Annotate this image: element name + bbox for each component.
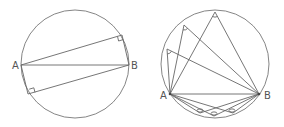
angle-marker-lower-2 xyxy=(211,112,217,115)
label-a-left: A xyxy=(12,60,19,71)
label-a-right: A xyxy=(160,90,167,101)
label-b-right: B xyxy=(264,90,271,101)
diagram-canvas: A B A B xyxy=(0,0,284,127)
angle-marker-top xyxy=(213,17,218,18)
angle-marker-lower-3 xyxy=(229,109,235,112)
left-figure: A B xyxy=(12,10,138,118)
angle-marker-low xyxy=(167,51,171,54)
point-b-dot xyxy=(258,93,261,96)
right-angle-marker-q xyxy=(29,88,35,93)
left-circle xyxy=(21,10,129,118)
chord-aq xyxy=(21,65,28,94)
label-b-left: B xyxy=(131,60,138,71)
point-a-dot xyxy=(169,93,172,96)
chord-qb xyxy=(28,65,129,94)
right-circle xyxy=(161,10,269,118)
right-figure: A B xyxy=(160,10,271,118)
chord-ap xyxy=(21,35,122,65)
